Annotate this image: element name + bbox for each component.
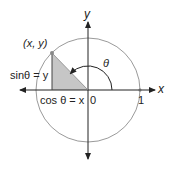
one-label: 1 [138,95,144,106]
cos-label: cos θ = x [40,95,84,106]
theta-label: θ [103,58,109,69]
origin-label: 0 [90,95,96,106]
x-axis-label: x [158,83,164,95]
sin-label: sinθ = y [10,70,48,81]
diagram-canvas [0,0,172,177]
point-marker [50,51,54,55]
unit-circle-diagram: y x (x, y) sinθ = y cos θ = x θ 0 1 [0,0,172,177]
y-axis-label: y [84,8,90,20]
unit-point-marker [138,88,141,91]
point-label: (x, y) [23,38,47,49]
